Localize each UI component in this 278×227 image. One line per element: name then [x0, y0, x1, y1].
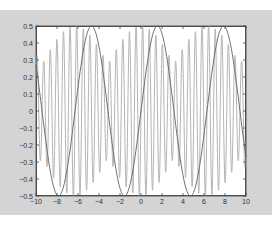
- y-tick-label: 0.1: [23, 91, 33, 98]
- x-tick-label: 6: [202, 198, 206, 205]
- x-tick-label: 10: [242, 198, 250, 205]
- series-layer: [36, 26, 246, 196]
- y-tick-label: −0.3: [19, 159, 33, 166]
- y-tick-label: 0.5: [23, 23, 33, 30]
- y-tick-label: 0.3: [23, 57, 33, 64]
- y-tick-label: −0.5: [19, 193, 33, 200]
- x-tick-label: −6: [74, 198, 82, 205]
- y-tick-label: 0.4: [23, 40, 33, 47]
- y-tick-label: 0.2: [23, 74, 33, 81]
- y-tick-label: 0: [29, 108, 33, 115]
- x-tick-label: −8: [53, 198, 61, 205]
- x-tick-label: 0: [139, 198, 143, 205]
- y-tick-label: −0.2: [19, 142, 33, 149]
- x-tick-label: 2: [160, 198, 164, 205]
- x-tick-label: 4: [181, 198, 185, 205]
- y-tick-label: −0.4: [19, 176, 33, 183]
- y-tick-label: −0.1: [19, 125, 33, 132]
- x-tick-label: 8: [223, 198, 227, 205]
- x-tick-label: −4: [95, 198, 103, 205]
- line-chart: −10−8−6−4−202468100.50.40.30.20.10−0.1−0…: [0, 0, 278, 227]
- x-tick-label: −2: [116, 198, 124, 205]
